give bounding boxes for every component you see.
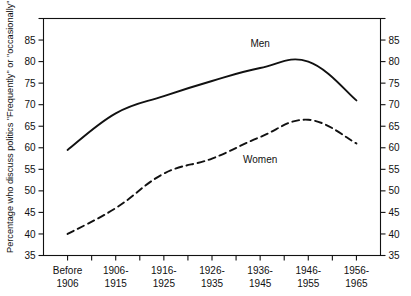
y-axis-labels-left: 3540455055606570758085 bbox=[24, 35, 36, 261]
y-tick-label-left: 75 bbox=[24, 78, 36, 89]
chart-container: 3540455055606570758085 35404550556065707… bbox=[0, 0, 411, 296]
y-tick-label-right: 50 bbox=[389, 185, 401, 196]
y-axis-ticks-right bbox=[381, 19, 386, 256]
x-category-label: 1906- bbox=[103, 265, 129, 276]
x-category-label: 1956- bbox=[344, 265, 370, 276]
x-category-label: 1936- bbox=[247, 265, 273, 276]
x-category-label: 1945 bbox=[249, 278, 272, 289]
y-tick-label-left: 70 bbox=[24, 99, 36, 110]
x-axis-ticks bbox=[68, 256, 357, 261]
y-tick-label-left: 35 bbox=[24, 250, 36, 261]
y-tick-label-left: 65 bbox=[24, 121, 36, 132]
y-tick-label-right: 45 bbox=[389, 207, 401, 218]
y-tick-label-right: 60 bbox=[389, 142, 401, 153]
y-tick-label-right: 65 bbox=[389, 121, 401, 132]
y-tick-label-left: 50 bbox=[24, 185, 36, 196]
x-category-label: 1965 bbox=[345, 278, 368, 289]
y-tick-label-left: 85 bbox=[24, 35, 36, 46]
line-chart: 3540455055606570758085 35404550556065707… bbox=[0, 0, 411, 296]
y-axis-title: Percentage who discuss politics "Frequen… bbox=[5, 0, 15, 253]
y-axis-title-text: Percentage who discuss politics "Frequen… bbox=[5, 0, 15, 253]
y-axis-ticks-left bbox=[39, 19, 44, 256]
y-axis-labels-right: 3540455055606570758085 bbox=[389, 35, 401, 261]
x-category-label: 1926- bbox=[199, 265, 225, 276]
y-tick-label-left: 45 bbox=[24, 207, 36, 218]
y-tick-label-left: 60 bbox=[24, 142, 36, 153]
y-tick-label-right: 70 bbox=[389, 99, 401, 110]
series-label-men: Men bbox=[250, 38, 269, 49]
y-tick-label-left: 55 bbox=[24, 164, 36, 175]
y-tick-label-right: 80 bbox=[389, 56, 401, 67]
x-category-label: 1915 bbox=[105, 278, 128, 289]
y-tick-label-left: 80 bbox=[24, 56, 36, 67]
y-tick-label-right: 40 bbox=[389, 229, 401, 240]
y-tick-label-right: 85 bbox=[389, 35, 401, 46]
x-category-label: 1906 bbox=[56, 278, 79, 289]
x-axis-category-labels: Before19061906-19151916-19251926-1935193… bbox=[53, 265, 369, 289]
x-category-label: 1946- bbox=[295, 265, 321, 276]
x-category-label: Before bbox=[53, 265, 83, 276]
y-tick-label-right: 35 bbox=[389, 250, 401, 261]
series-label-women: Women bbox=[243, 154, 277, 165]
x-category-label: 1955 bbox=[297, 278, 320, 289]
y-tick-label-right: 75 bbox=[389, 78, 401, 89]
y-tick-label-left: 40 bbox=[24, 229, 36, 240]
x-category-label: 1935 bbox=[201, 278, 224, 289]
x-category-label: 1925 bbox=[153, 278, 176, 289]
y-tick-label-right: 55 bbox=[389, 164, 401, 175]
x-category-label: 1916- bbox=[151, 265, 177, 276]
